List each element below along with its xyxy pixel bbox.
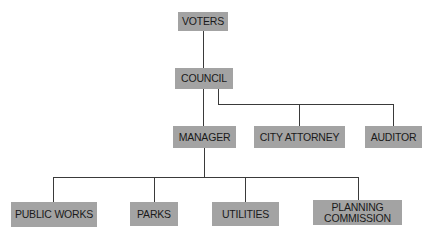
connector-manager-horizontal	[53, 177, 359, 178]
connector-manager-down	[204, 148, 205, 177]
node-parks: PARKS	[130, 202, 178, 226]
node-auditor: AUDITOR	[365, 126, 422, 148]
connector-planning	[358, 177, 359, 200]
node-council: COUNCIL	[175, 68, 233, 89]
connector-utilities	[245, 177, 246, 202]
connector-council-branch	[218, 89, 219, 104]
connector-council-horizontal	[218, 104, 394, 105]
node-voters: VOTERS	[178, 12, 228, 31]
connector-council-manager	[203, 89, 204, 126]
node-planning-commission: PLANNING COMMISSION	[313, 200, 402, 225]
connector-auditor	[393, 104, 394, 127]
node-utilities: UTILITIES	[212, 202, 279, 226]
node-public-works: PUBLIC WORKS	[11, 202, 97, 227]
connector-parks	[154, 177, 155, 202]
connector-city-attorney	[299, 104, 300, 127]
connector-public-works	[53, 177, 54, 202]
connector-voters-council	[203, 31, 204, 68]
node-manager: MANAGER	[173, 126, 236, 148]
node-city-attorney: CITY ATTORNEY	[254, 126, 345, 148]
